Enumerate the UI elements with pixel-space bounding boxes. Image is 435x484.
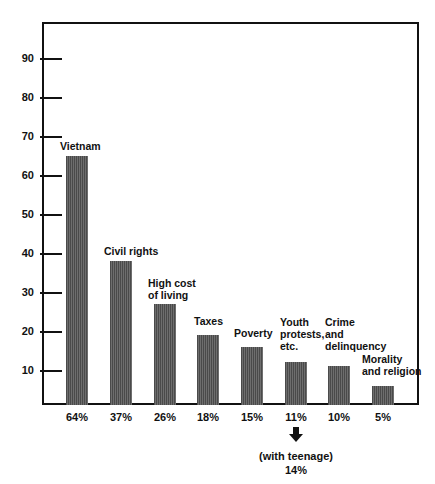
bar-value-high-cost-of-living: 26% xyxy=(143,411,187,423)
bar-value-poverty: 15% xyxy=(230,411,274,423)
plot-frame xyxy=(42,22,419,405)
annotation-note-line2: 14% xyxy=(226,464,366,477)
y-tick-label-10: 10 xyxy=(6,365,34,376)
bar-value-youth-protests: 11% xyxy=(274,411,318,423)
y-tick-label-50: 50 xyxy=(6,209,34,220)
bar-chart: 90 80 70 60 50 40 30 20 xyxy=(0,0,435,484)
annotation-note-line1: (with teenage) xyxy=(226,450,366,463)
bar-value-morality-and-religion: 5% xyxy=(361,411,405,423)
y-tick-label-60: 60 xyxy=(6,170,34,181)
y-tick-label-20: 20 xyxy=(6,326,34,337)
bar-value-vietnam: 64% xyxy=(55,411,99,423)
bar-value-civil-rights: 37% xyxy=(99,411,143,423)
y-tick-label-30: 30 xyxy=(6,287,34,298)
y-tick-label-90: 90 xyxy=(6,53,34,64)
y-tick-label-40: 40 xyxy=(6,248,34,259)
y-tick-label-70: 70 xyxy=(6,131,34,142)
y-tick-label-80: 80 xyxy=(6,92,34,103)
bar-value-crime-and-delinquency: 10% xyxy=(317,411,361,423)
bar-value-taxes: 18% xyxy=(186,411,230,423)
